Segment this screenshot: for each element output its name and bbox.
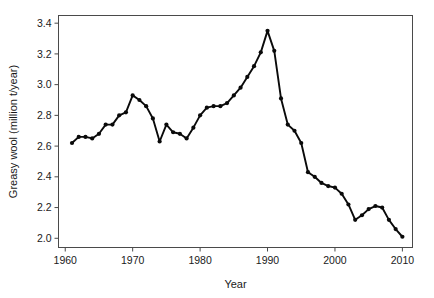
data-point-marker [360,213,364,217]
data-point-marker [353,218,357,222]
data-point-marker [272,49,276,53]
data-point-marker [400,235,404,239]
data-point-marker [178,132,182,136]
data-point-marker [97,132,101,136]
data-point-marker [292,129,296,133]
x-axis-title: Year [224,278,247,290]
chart-ticks: 2.02.22.42.62.83.03.23.41960197019801990… [37,17,414,266]
data-point-marker [77,135,81,139]
data-point-marker [131,93,135,97]
data-point-marker [164,122,168,126]
data-point-marker [104,122,108,126]
data-point-marker [110,122,114,126]
y-tick-label: 2.8 [37,109,52,121]
data-point-marker [326,184,330,188]
data-point-marker [90,136,94,140]
chart-axes [59,16,413,248]
x-tick-label: 1990 [256,254,280,266]
data-point-marker [83,135,87,139]
y-tick-label: 2.2 [37,201,52,213]
data-point-marker [70,141,74,145]
data-point-marker [205,106,209,110]
data-point-marker [238,86,242,90]
data-point-marker [252,64,256,68]
data-point-marker [191,126,195,130]
y-axis-title: Greasy wool (million t/year) [7,65,19,198]
x-tick-label: 1960 [54,254,78,266]
x-tick-label: 1980 [188,254,212,266]
y-tick-label: 2.0 [37,232,52,244]
chart-series [70,29,405,239]
data-point-marker [158,139,162,143]
data-point-marker [265,29,269,33]
y-tick-label: 3.4 [37,17,52,29]
x-tick-label: 2000 [323,254,347,266]
data-point-marker [394,227,398,231]
series-line-greasy-wool [72,31,402,237]
y-tick-label: 2.4 [37,170,52,182]
y-tick-label: 2.6 [37,140,52,152]
data-point-marker [117,113,121,117]
line-chart: 2.02.22.42.62.83.03.23.41960197019801990… [0,0,434,298]
data-point-marker [299,141,303,145]
data-point-marker [259,50,263,54]
data-point-marker [286,122,290,126]
data-point-marker [340,192,344,196]
data-point-marker [144,104,148,108]
data-point-marker [306,170,310,174]
y-tick-label: 3.0 [37,78,52,90]
chart-figure: 2.02.22.42.62.83.03.23.41960197019801990… [0,0,434,298]
data-point-marker [333,185,337,189]
data-point-marker [346,202,350,206]
data-point-marker [313,175,317,179]
data-point-marker [373,204,377,208]
data-point-marker [198,113,202,117]
x-tick-label: 1970 [121,254,145,266]
data-point-marker [387,218,391,222]
data-point-marker [245,75,249,79]
data-point-marker [151,116,155,120]
data-point-marker [319,181,323,185]
data-point-marker [232,93,236,97]
data-point-marker [380,205,384,209]
data-point-marker [279,96,283,100]
data-point-marker [185,136,189,140]
y-tick-label: 3.2 [37,48,52,60]
data-point-marker [211,104,215,108]
data-point-marker [124,110,128,114]
plot-frame [59,16,413,248]
data-point-marker [225,101,229,105]
x-tick-label: 2010 [391,254,415,266]
data-point-marker [367,207,371,211]
data-point-marker [218,104,222,108]
data-point-marker [171,130,175,134]
data-point-marker [137,98,141,102]
